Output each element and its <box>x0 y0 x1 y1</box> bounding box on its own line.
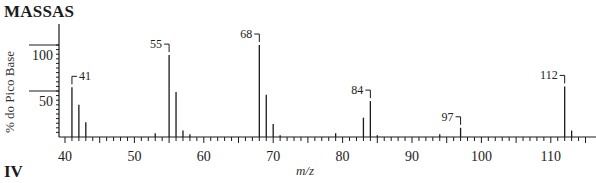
x-tick-label: 110 <box>541 149 561 164</box>
peak-label-bracket <box>254 34 259 42</box>
peak-label-bracket <box>365 90 370 98</box>
x-tick-label: 90 <box>405 149 419 164</box>
y-tick-label: 50 <box>39 94 53 109</box>
x-tick-label: 50 <box>127 149 141 164</box>
peak-label: 84 <box>351 83 363 97</box>
x-tick-label: 40 <box>58 149 72 164</box>
peak-label: 41 <box>79 69 91 83</box>
x-axis-title: m/z <box>296 163 314 178</box>
peak-label: 97 <box>442 110 454 124</box>
x-tick-label: 80 <box>336 149 350 164</box>
peak-label-bracket <box>164 44 169 52</box>
peak-label: 68 <box>240 27 252 41</box>
peak-label-bracket <box>72 76 77 84</box>
peak-label-bracket <box>560 75 565 83</box>
x-tick-label: 100 <box>471 149 492 164</box>
peak-label: 55 <box>150 37 162 51</box>
mass-spectrum-chart: 50100% do Pico Base405060708090100110m/z… <box>0 0 596 183</box>
x-tick-label: 70 <box>266 149 280 164</box>
y-tick-label: 100 <box>32 48 53 63</box>
peak-label-bracket <box>456 117 461 125</box>
y-axis-title: % do Pico Base <box>2 51 17 133</box>
x-tick-label: 60 <box>197 149 211 164</box>
peak-label: 112 <box>540 68 558 82</box>
